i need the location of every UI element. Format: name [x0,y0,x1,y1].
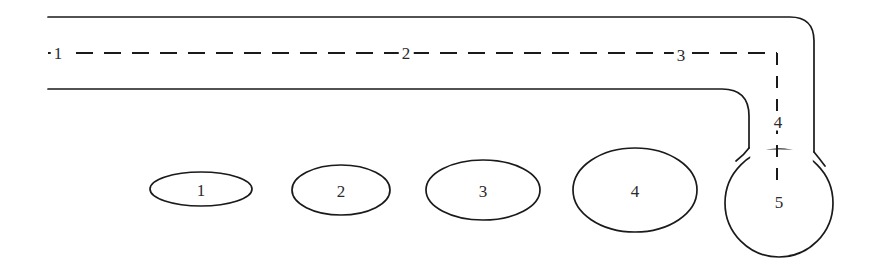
centerline-label-3: 3 [674,47,689,64]
centerline-label-1: 1 [51,45,66,62]
bulb-neck-mask [750,150,813,163]
inner-wall-line [48,89,749,148]
diagram-canvas: 1 2 3 4 5 1 2 3 4 [0,0,886,266]
duct-geometry-drawing [0,0,886,266]
cross-section-label-3: 3 [479,183,488,200]
centerline-label-4: 4 [771,114,786,131]
outer-wall-line [48,17,814,152]
centerline-label-2: 2 [399,45,414,62]
cross-section-label-1: 1 [197,182,206,199]
cross-section-label-2: 2 [337,183,346,200]
cross-section-label-4: 4 [631,183,640,200]
centerline-label-5: 5 [772,194,787,211]
